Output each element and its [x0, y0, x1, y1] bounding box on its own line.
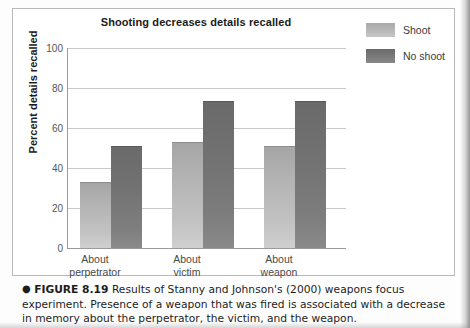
- x-category-line: victim: [141, 266, 233, 279]
- bar-no-shoot-about-perpetrator: [111, 146, 142, 248]
- y-tick-label: 60: [33, 123, 63, 134]
- page-edge-shadow-right: [460, 0, 470, 328]
- bar-shoot-about-weapon: [264, 146, 295, 248]
- x-category-line: weapon: [233, 266, 325, 279]
- y-tick-label: 40: [33, 163, 63, 174]
- chart-plot: Percent details recalled 100 80 60 40 20…: [0, 0, 470, 328]
- page-edge-shadow-bottom: [0, 322, 470, 328]
- bar-shoot-about-victim: [172, 142, 203, 248]
- x-category-line: perpetrator: [49, 266, 141, 279]
- bars-layer: [67, 48, 345, 248]
- x-category-about-victim: About victim: [141, 253, 233, 279]
- bar-shoot-about-perpetrator: [80, 182, 111, 248]
- y-tick-label: 80: [33, 83, 63, 94]
- y-axis-tick-labels: 100 80 60 40 20 0: [31, 48, 63, 248]
- scanned-page: Shooting decreases details recalled Shoo…: [0, 0, 470, 328]
- caption-figure-label: FIGURE 8.19: [34, 283, 108, 296]
- bar-no-shoot-about-victim: [203, 101, 234, 248]
- figure-caption: ● FIGURE 8.19 Results of Stanny and John…: [22, 282, 446, 327]
- y-tick-label: 20: [33, 203, 63, 214]
- bar-no-shoot-about-weapon: [295, 101, 326, 248]
- x-category-line: About: [233, 253, 325, 266]
- x-category-about-perpetrator: About perpetrator: [49, 253, 141, 279]
- x-category-about-weapon: About weapon: [233, 253, 325, 279]
- y-tick-label: 100: [33, 43, 63, 54]
- y-tick-label: 0: [33, 243, 63, 254]
- x-category-line: About: [49, 253, 141, 266]
- caption-bullet-icon: ●: [22, 283, 31, 294]
- x-category-line: About: [141, 253, 233, 266]
